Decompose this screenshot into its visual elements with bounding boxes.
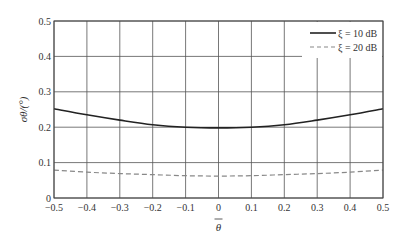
y-tick-labels: 00.10.20.30.40.5: [39, 16, 52, 204]
y-tick-label: 0.3: [39, 86, 52, 97]
x-tick-label: 0.2: [278, 202, 291, 213]
legend-label-10db: ξ = 10 dB: [338, 28, 378, 40]
x-tick-label: −0.3: [111, 202, 129, 213]
y-tick-label: 0.4: [39, 51, 52, 62]
x-tick-label: 0.4: [344, 202, 357, 213]
legend-label-20db: ξ = 20 dB: [338, 42, 378, 54]
y-tick-label: 0.5: [39, 16, 52, 27]
chart: −0.5−0.4−0.3−0.2−0.100.10.20.30.40.5 00.…: [0, 0, 411, 238]
x-tick-label: 0.5: [377, 202, 390, 213]
y-tick-label: 0: [46, 193, 51, 204]
x-tick-label: −0.2: [144, 202, 162, 213]
x-tick-label: −0.5: [45, 202, 63, 213]
y-tick-label: 0.1: [39, 157, 52, 168]
x-axis-title: θ: [216, 221, 222, 233]
x-tick-label: −0.4: [78, 202, 96, 213]
x-tick-labels: −0.5−0.4−0.3−0.2−0.100.10.20.30.40.5: [45, 202, 389, 213]
x-tick-label: 0.1: [245, 202, 258, 213]
y-tick-label: 0.2: [39, 122, 52, 133]
y-axis-title: σθ/(°): [17, 96, 30, 122]
x-tick-label: 0: [216, 202, 221, 213]
x-axis-label: θ: [215, 219, 223, 233]
x-tick-label: −0.1: [177, 202, 195, 213]
x-tick-label: 0.3: [311, 202, 324, 213]
legend: ξ = 10 dB ξ = 20 dB: [302, 22, 382, 58]
